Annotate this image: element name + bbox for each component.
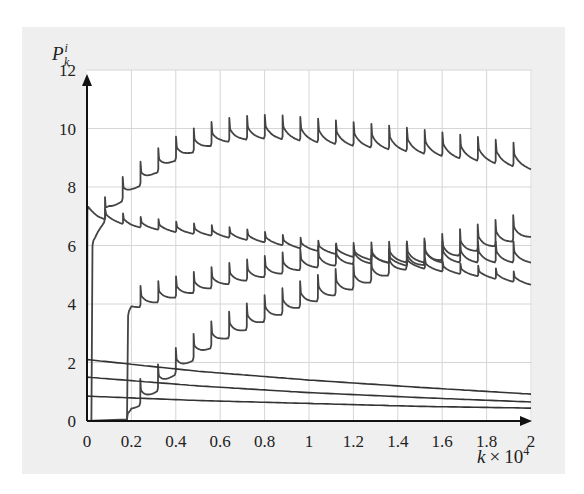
x-tick-label: 1 [305, 432, 314, 451]
y-tick-label: 6 [68, 237, 77, 256]
line-chart: 00.20.40.60.811.21.41.61.82 024681012 Pi… [0, 0, 584, 494]
y-tick-label: 4 [68, 295, 77, 314]
x-tick-label: 0.2 [121, 432, 142, 451]
x-tick-label: 0 [83, 432, 92, 451]
y-tick-labels: 024681012 [59, 61, 77, 431]
x-tick-label: 0.4 [165, 432, 187, 451]
x-axis-label: k×104 [477, 444, 529, 467]
y-tick-label: 2 [68, 354, 77, 373]
x-tick-labels: 00.20.40.60.811.21.41.61.82 [83, 432, 536, 451]
y-tick-label: 8 [68, 178, 77, 197]
x-tick-label: 0.6 [210, 432, 231, 451]
y-tick-label: 0 [68, 412, 77, 431]
x-tick-label: 1.4 [387, 432, 409, 451]
y-tick-label: 10 [59, 120, 76, 139]
x-tick-label: 1.2 [343, 432, 364, 451]
x-tick-label: 0.8 [254, 432, 275, 451]
x-tick-label: 1.6 [432, 432, 453, 451]
